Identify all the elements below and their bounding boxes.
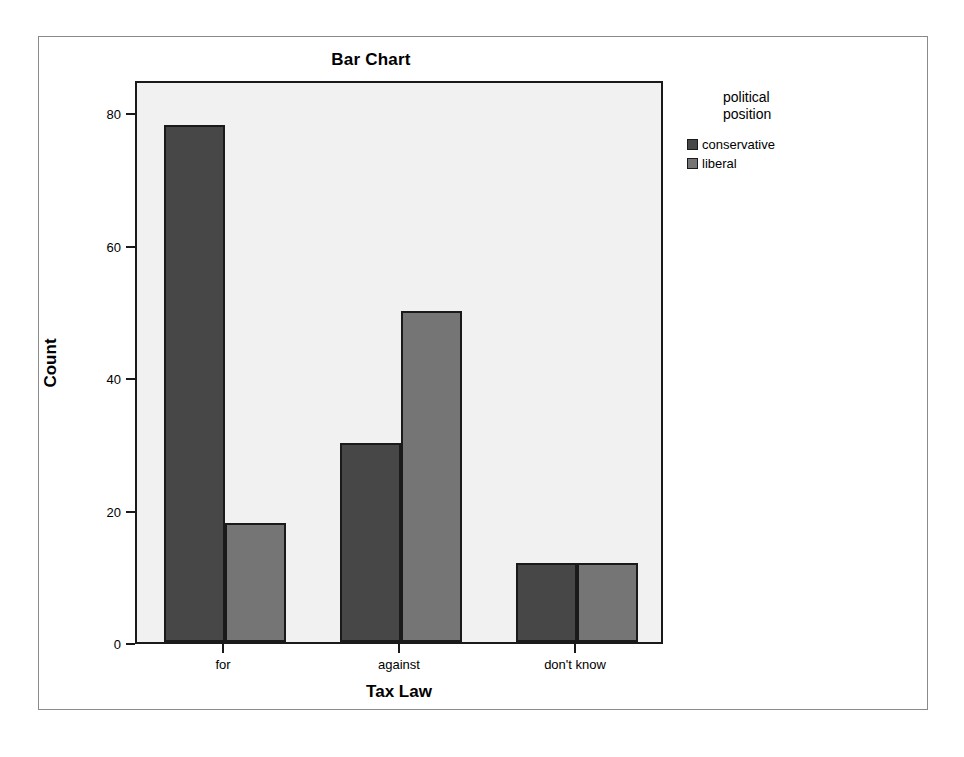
bars-container (137, 83, 661, 642)
plot-area (135, 81, 663, 644)
chart-title: Bar Chart (39, 50, 703, 70)
y-axis: 020406080Count (39, 81, 135, 644)
bar-against-conservative (340, 443, 401, 642)
y-tick-mark (126, 643, 135, 645)
bar-for-conservative (164, 125, 225, 642)
x-tick-mark (398, 644, 400, 653)
bar-for-liberal (225, 523, 286, 642)
x-tick-mark (222, 644, 224, 653)
y-tick-label: 20 (107, 504, 121, 519)
legend-entry-conservative: conservative (687, 136, 887, 153)
x-tick-label: don't know (544, 657, 606, 672)
legend-swatch-icon (687, 158, 698, 169)
y-axis-title: Count (41, 338, 61, 387)
bar-don-t-know-liberal (577, 563, 638, 642)
x-tick-label: against (378, 657, 420, 672)
y-tick-label: 0 (114, 637, 121, 652)
y-tick-label: 80 (107, 107, 121, 122)
chart-legend: political position conservativeliberal (687, 89, 887, 174)
y-tick-mark (126, 113, 135, 115)
x-axis: foragainstdon't know (135, 644, 663, 684)
y-tick-label: 60 (107, 239, 121, 254)
legend-entries: conservativeliberal (687, 136, 887, 172)
y-tick-label: 40 (107, 372, 121, 387)
chart-figure: Bar Chart 020406080Count foragainstdon't… (38, 36, 928, 710)
legend-title: political position (723, 89, 887, 123)
y-tick-mark (126, 378, 135, 380)
legend-label: liberal (702, 156, 737, 171)
x-tick-label: for (215, 657, 230, 672)
y-tick-mark (126, 246, 135, 248)
legend-entry-liberal: liberal (687, 155, 887, 172)
x-tick-mark (574, 644, 576, 653)
bar-don-t-know-conservative (516, 563, 577, 642)
legend-label: conservative (702, 137, 775, 152)
y-tick-mark (126, 511, 135, 513)
legend-swatch-icon (687, 139, 698, 150)
x-axis-title: Tax Law (135, 682, 663, 702)
bar-against-liberal (401, 311, 462, 642)
